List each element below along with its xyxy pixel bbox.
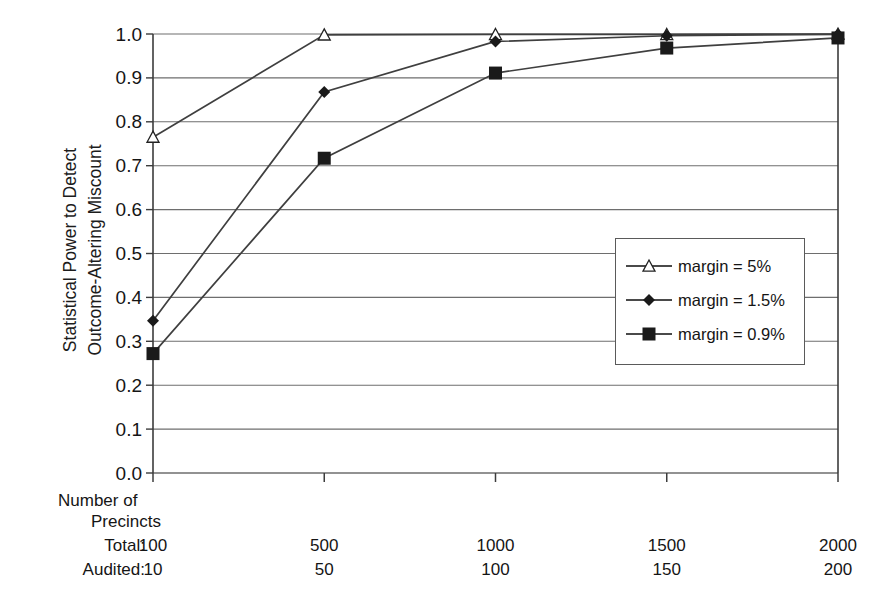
x-axis-label-block: Number of Precincts Total: Audited: 1005…: [0, 488, 886, 598]
x-axis-title-line2: Precincts: [56, 511, 196, 532]
x-axis-audited-value: 50: [279, 560, 369, 580]
y-axis-tick-label: 0.9: [82, 68, 142, 87]
x-axis-audited-value: 10: [108, 560, 198, 580]
marker-square-filled-icon: [660, 42, 673, 55]
y-axis-tick-label: 0.8: [82, 112, 142, 131]
legend-item[interactable]: margin = 0.9%: [616, 319, 804, 349]
chart-figure: Statistical Power to Detect Outcome-Alte…: [0, 0, 886, 611]
y-axis-tick-label: 0.1: [82, 420, 142, 439]
legend-item[interactable]: margin = 1.5%: [616, 285, 804, 315]
x-axis-audited-value: 150: [622, 560, 712, 580]
x-axis-total-value: 1000: [451, 536, 541, 556]
marker-diamond-filled-icon: [643, 294, 655, 306]
x-axis-total-value: 1500: [622, 536, 712, 556]
x-axis-title: Number of Precincts: [56, 490, 196, 532]
legend-item-label: margin = 0.9%: [678, 325, 785, 344]
diamond-filled-icon: [638, 289, 660, 311]
x-axis-ticks: [153, 473, 838, 482]
marker-square-filled-icon: [318, 152, 331, 165]
y-axis-title-container: Statistical Power to Detect Outcome-Alte…: [0, 0, 70, 480]
x-axis-title-line1: Number of: [56, 490, 196, 511]
y-axis-tick-label: 1.0: [82, 25, 142, 44]
marker-triangle-open-icon: [643, 260, 655, 271]
x-axis-total-value: 100: [108, 536, 198, 556]
marker-square-filled-icon: [489, 67, 502, 80]
legend-marker-key: [626, 289, 672, 311]
y-axis-tick-label: 0.3: [82, 332, 142, 351]
x-axis-total-value: 2000: [793, 536, 883, 556]
y-axis-tick-label: 0.0: [82, 464, 142, 483]
marker-square-filled-icon: [832, 31, 845, 44]
legend-marker-key: [626, 323, 672, 345]
triangle-open-icon: [638, 255, 660, 277]
marker-square-filled-icon: [147, 347, 160, 360]
y-axis-tick-label: 0.6: [82, 200, 142, 219]
y-axis-tick-label: 0.5: [82, 244, 142, 263]
legend-item-label: margin = 5%: [678, 257, 771, 276]
y-axis-tick-labels: 1.00.90.80.70.60.50.40.30.20.10.0: [70, 0, 142, 500]
square-filled-icon: [638, 323, 660, 345]
y-axis-tick-label: 0.4: [82, 288, 142, 307]
y-axis-tick-label: 0.2: [82, 376, 142, 395]
legend-item-label: margin = 1.5%: [678, 291, 785, 310]
marker-square-filled-icon: [643, 328, 656, 341]
marker-triangle-open-icon: [147, 131, 159, 142]
x-axis-total-value: 500: [279, 536, 369, 556]
legend-item[interactable]: margin = 5%: [616, 251, 804, 281]
y-axis-tick-label: 0.7: [82, 156, 142, 175]
x-axis-audited-value: 200: [793, 560, 883, 580]
x-axis-audited-value: 100: [451, 560, 541, 580]
legend-marker-key: [626, 255, 672, 277]
legend: margin = 5%margin = 1.5%margin = 0.9%: [615, 238, 805, 365]
